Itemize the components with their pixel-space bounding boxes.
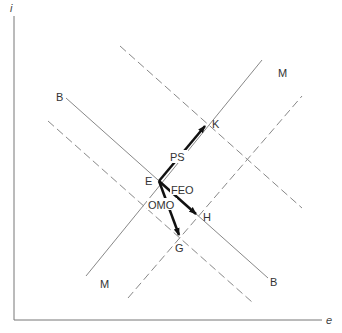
diagram-canvas: i e B B M M PS FEO OMO bbox=[0, 0, 342, 333]
y-axis-label: i bbox=[10, 2, 13, 14]
is-diagram: i e B B M M PS FEO OMO bbox=[0, 0, 342, 333]
axes: i e bbox=[10, 2, 332, 326]
bb-label-top: B bbox=[56, 91, 63, 103]
mm-label-bottom: M bbox=[100, 278, 109, 290]
bb-curves: B B bbox=[48, 46, 302, 302]
feo-label: FEO bbox=[171, 184, 194, 196]
x-axis-label: e bbox=[326, 314, 332, 326]
point-k-label: K bbox=[212, 118, 220, 130]
bb-dashed-lower-line bbox=[48, 121, 252, 302]
mm-curves: M M bbox=[86, 60, 302, 298]
point-e-label: E bbox=[145, 175, 152, 187]
omo-label: OMO bbox=[148, 199, 175, 211]
mm-solid-line bbox=[86, 60, 262, 276]
policy-arrows: PS FEO OMO bbox=[147, 126, 205, 235]
point-g-label: G bbox=[175, 242, 184, 254]
bb-label-bottom: B bbox=[270, 276, 277, 288]
point-h-label: H bbox=[203, 211, 211, 223]
ps-label: PS bbox=[170, 151, 185, 163]
mm-label-top: M bbox=[278, 67, 287, 79]
